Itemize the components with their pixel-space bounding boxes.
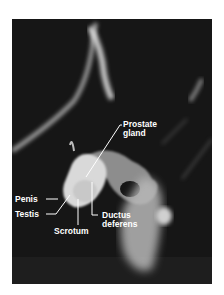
label-scrotum: Scrotum [54,227,88,236]
anatomy-illustration [12,19,212,284]
anatomy-photo: Prostate gland Penis Testis Scrotum Duct… [12,19,212,284]
label-line: Testis [15,210,39,219]
label-line: Penis [15,195,38,204]
label-ductus-deferens: Ductus deferens [102,211,137,229]
label-prostate-gland: Prostate gland [123,120,157,138]
label-penis: Penis [15,195,38,204]
label-testis: Testis [15,210,39,219]
label-line: Scrotum [54,227,88,236]
label-line: deferens [102,220,137,229]
label-line: gland [123,129,157,138]
